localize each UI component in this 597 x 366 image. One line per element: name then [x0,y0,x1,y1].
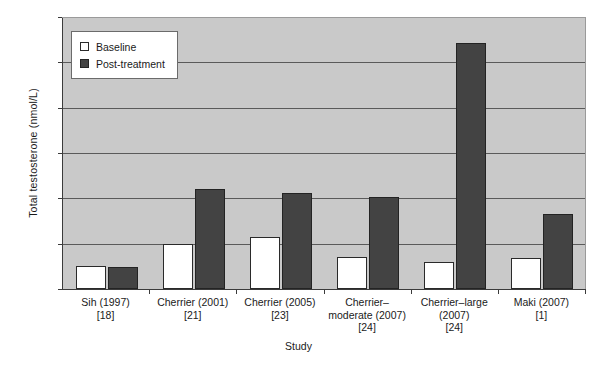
x-tick-mark [498,289,499,294]
plot-area: Baseline Post-treatment [62,17,586,290]
y-tick-mark [58,198,63,199]
bar-chart: Total testosterone (nmol/L) 020406080100… [0,0,597,366]
bar-post-treatment [108,267,138,289]
bar-baseline [250,237,280,289]
x-tick-mark [324,289,325,294]
bar-post-treatment [456,43,486,289]
bar-baseline [337,257,367,289]
legend-swatch-baseline-icon [80,42,89,51]
x-category-label: Sih (1997) [18] [62,296,149,321]
x-axis-title: Study [0,340,597,352]
x-category-label: Cherrier– moderate (2007) [24] [324,296,411,334]
bar-post-treatment [282,193,312,289]
bar-baseline [76,266,106,289]
bar-baseline [424,262,454,289]
gridline [63,153,586,154]
x-category-label: Cherrier (2005) [23] [236,296,323,321]
x-tick-mark [236,289,237,294]
legend-item-post-treatment: Post-treatment [80,55,165,72]
x-tick-mark [149,289,150,294]
bar-post-treatment [543,214,573,289]
gridline [63,244,586,245]
x-category-label: Maki (2007) [1] [498,296,585,321]
bar-baseline [511,258,541,289]
y-tick-mark [58,289,63,290]
bar-post-treatment [369,197,399,289]
x-category-label: Cherrier (2001) [21] [149,296,236,321]
y-tick-mark [58,108,63,109]
legend-item-baseline: Baseline [80,38,165,55]
chart-legend: Baseline Post-treatment [71,31,178,79]
bar-baseline [163,244,193,289]
gridline [63,198,586,199]
legend-label-post-treatment: Post-treatment [96,58,165,70]
plot-frame-top [62,17,586,18]
y-axis-title: Total testosterone (nmol/L) [27,28,39,278]
x-category-label: Cherrier–large (2007) [24] [411,296,498,334]
x-tick-mark [411,289,412,294]
legend-label-baseline: Baseline [96,41,136,53]
y-tick-mark [58,62,63,63]
gridline [63,108,586,109]
x-tick-mark [585,289,586,294]
y-tick-mark [58,153,63,154]
legend-swatch-post-treatment-icon [80,59,89,68]
bar-post-treatment [195,189,225,289]
y-tick-mark [58,244,63,245]
plot-frame-right [585,17,586,289]
